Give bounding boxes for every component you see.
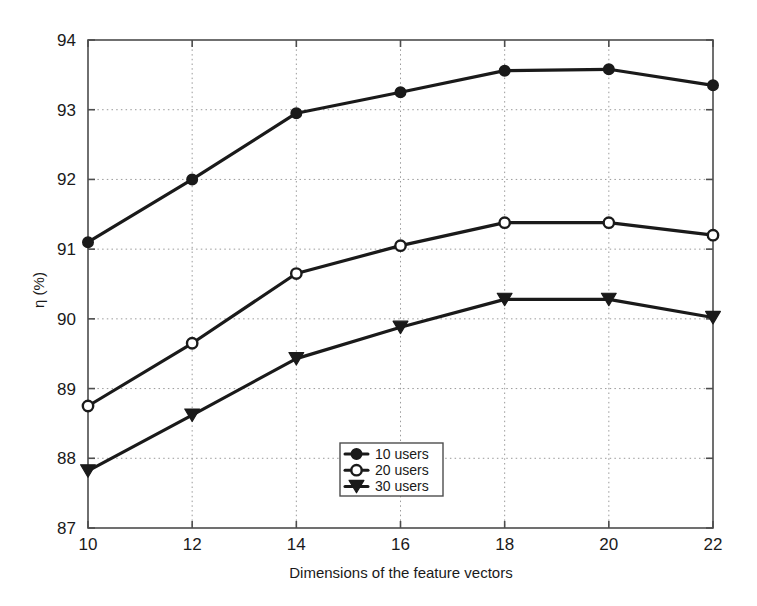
data-point-marker: [291, 108, 301, 118]
data-point-marker: [395, 87, 405, 97]
data-point-marker: [499, 217, 509, 227]
figure-canvas: 878889909192939410121416182022 10 users2…: [0, 0, 757, 606]
data-point-marker: [708, 230, 718, 240]
x-axis-title: Dimensions of the feature vectors: [289, 564, 512, 581]
data-point-marker: [83, 237, 93, 247]
data-point-marker: [187, 338, 197, 348]
legend-marker-filled-circle-icon: [351, 449, 361, 459]
y-tick-label: 88: [57, 449, 76, 468]
legend-item-label: 10 users: [375, 446, 429, 462]
legend-marker-open-circle-icon: [351, 465, 361, 475]
x-tick-label: 14: [287, 535, 306, 554]
data-point-marker: [604, 217, 614, 227]
y-tick-label: 93: [57, 101, 76, 120]
line-chart: 878889909192939410121416182022 10 users2…: [0, 0, 757, 606]
data-point-marker: [187, 174, 197, 184]
x-tick-label: 10: [79, 535, 98, 554]
data-point-marker: [499, 65, 509, 75]
data-point-marker: [604, 64, 614, 74]
y-tick-label: 89: [57, 380, 76, 399]
legend-item-10-users[interactable]: 10 users: [345, 446, 429, 462]
y-tick-label: 92: [57, 170, 76, 189]
chart-legend[interactable]: 10 users20 users30 users: [340, 443, 443, 496]
legend-item-label: 20 users: [375, 462, 429, 478]
y-axis-title: η (%): [30, 272, 47, 308]
x-tick-label: 16: [391, 535, 410, 554]
y-tick-label: 94: [57, 31, 76, 50]
x-tick-label: 20: [599, 535, 618, 554]
x-tick-label: 12: [183, 535, 202, 554]
x-tick-label: 22: [704, 535, 723, 554]
legend-item-label: 30 users: [375, 478, 429, 494]
data-point-marker: [708, 80, 718, 90]
data-point-marker: [291, 268, 301, 278]
chart-background: [0, 0, 757, 606]
data-point-marker: [83, 401, 93, 411]
legend-item-20-users[interactable]: 20 users: [345, 462, 429, 478]
x-tick-label: 18: [495, 535, 514, 554]
y-tick-label: 90: [57, 310, 76, 329]
y-tick-label: 87: [57, 519, 76, 538]
y-tick-label: 91: [57, 240, 76, 259]
legend-item-30-users[interactable]: 30 users: [345, 478, 429, 494]
data-point-marker: [395, 240, 405, 250]
